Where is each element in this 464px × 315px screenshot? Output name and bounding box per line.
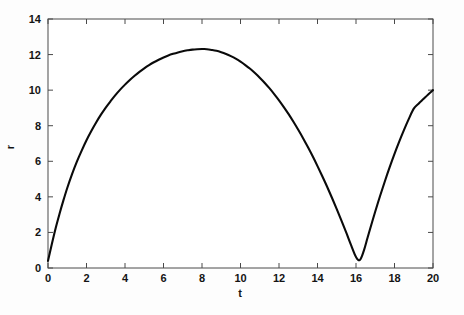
- plot-background: [48, 19, 433, 268]
- x-tick-label: 8: [199, 272, 205, 284]
- y-tick-label: 0: [35, 262, 41, 274]
- y-tick-label: 14: [29, 13, 42, 25]
- x-tick-label: 2: [83, 272, 89, 284]
- x-tick-label: 6: [160, 272, 166, 284]
- x-tick-label: 18: [388, 272, 400, 284]
- x-tick-label: 10: [234, 272, 246, 284]
- x-tick-label: 12: [273, 272, 285, 284]
- y-axis-tick-labels: 02468101214: [29, 13, 42, 274]
- y-tick-label: 2: [35, 226, 41, 238]
- x-axis-tick-labels: 02468101214161820: [45, 272, 439, 284]
- x-tick-label: 4: [122, 272, 129, 284]
- x-tick-label: 14: [311, 272, 324, 284]
- y-tick-label: 12: [29, 49, 41, 61]
- x-tick-label: 20: [427, 272, 439, 284]
- line-chart: 02468101214161820 02468101214 t r: [0, 0, 464, 315]
- x-tick-label: 0: [45, 272, 51, 284]
- y-tick-label: 6: [35, 155, 41, 167]
- y-tick-label: 10: [29, 84, 41, 96]
- x-tick-label: 16: [350, 272, 362, 284]
- x-axis-title: t: [238, 287, 242, 299]
- figure-canvas: 02468101214161820 02468101214 t r: [0, 0, 464, 315]
- y-tick-label: 4: [35, 191, 42, 203]
- y-tick-label: 8: [35, 120, 41, 132]
- y-axis-title: r: [4, 144, 16, 149]
